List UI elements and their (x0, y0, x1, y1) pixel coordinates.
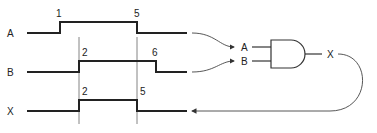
signal-label-a: A (7, 28, 14, 39)
edge-label-x-rise: 2 (82, 86, 88, 97)
waveform-x: X 2 5 (7, 86, 187, 117)
gate-output-label-x: X (327, 49, 334, 60)
timing-diagram: A 1 5 B 2 6 X 2 5 A B X (0, 0, 377, 133)
arrow-output-to-x-waveform (192, 54, 363, 111)
edge-label-a-fall: 5 (134, 8, 140, 19)
gate-input-label-a: A (241, 42, 248, 53)
gate-input-label-b: B (241, 56, 248, 67)
edge-label-a-rise: 1 (56, 8, 62, 19)
waveform-a: A 1 5 (7, 8, 187, 39)
signal-label-x: X (7, 106, 14, 117)
and-gate-symbol (271, 40, 305, 68)
arrow-a-to-gate (192, 33, 234, 47)
waveform-b: B 2 6 (7, 47, 187, 78)
edge-label-b-rise: 2 (82, 47, 88, 58)
edge-label-b-fall: 6 (152, 47, 158, 58)
edge-label-x-fall: 5 (140, 86, 146, 97)
arrow-b-to-gate (192, 61, 234, 72)
signal-label-b: B (7, 67, 14, 78)
